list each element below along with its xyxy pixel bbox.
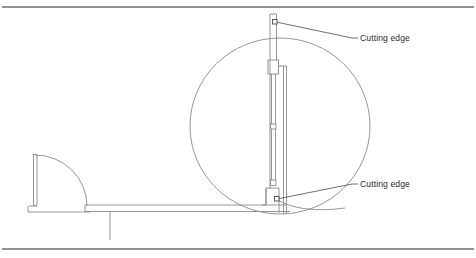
floor-beam-assembly bbox=[85, 205, 290, 240]
mast-mechanism bbox=[262, 14, 287, 214]
swing-radius-circle bbox=[190, 38, 370, 214]
door-swing-arc bbox=[35, 155, 87, 206]
callout-leader-top bbox=[273, 20, 359, 39]
lower-joint-marker bbox=[271, 180, 277, 186]
callout-leader-top-line bbox=[276, 22, 352, 38]
callout-label-cutting-edge-top: Cutting edge bbox=[360, 33, 410, 43]
callout-anchor-bottom-dot bbox=[275, 197, 280, 202]
callout-label-cutting-edge-bottom: Cutting edge bbox=[360, 179, 410, 189]
door-assembly bbox=[28, 154, 90, 212]
technical-drawing: Cutting edge Cutting edge bbox=[0, 0, 476, 258]
mid-joint-marker bbox=[271, 124, 277, 129]
callout-anchor-top-dot bbox=[273, 20, 278, 25]
page-rules bbox=[2, 7, 474, 249]
diagram-canvas: Cutting edge Cutting edge bbox=[0, 0, 476, 258]
